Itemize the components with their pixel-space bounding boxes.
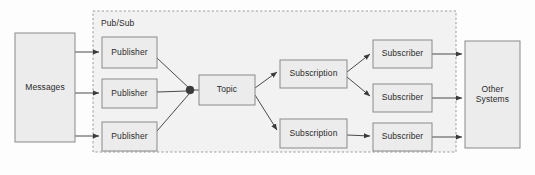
node-publisher3[interactable]: Publisher [102,122,157,151]
node-subscriber2[interactable]: Subscriber [373,84,432,112]
node-subscriber2-label: Subscriber [382,92,424,102]
pubsub-architecture-diagram: Pub/Sub MessagesPublisherPublisherPublis… [0,0,535,175]
node-publisher3-label: Publisher [111,131,147,141]
node-othersystems-label: Systems [476,94,509,104]
publisher-fan-in-junction-dot [186,86,194,94]
node-subscription1-label: Subscription [290,68,338,78]
node-subscription1[interactable]: Subscription [280,60,347,88]
pubsub-group-label: Pub/Sub [101,18,134,28]
node-publisher1[interactable]: Publisher [102,37,157,68]
node-messages-label: Messages [25,82,65,92]
node-subscriber3-label: Subscriber [382,131,424,141]
node-topic[interactable]: Topic [199,75,255,105]
node-othersystems-label: Other [482,84,504,94]
node-othersystems[interactable]: OtherSystems [465,41,520,148]
diagram-canvas: Pub/Sub MessagesPublisherPublisherPublis… [0,0,535,175]
node-subscriber3[interactable]: Subscriber [373,123,432,151]
node-subscription2[interactable]: Subscription [280,119,347,148]
node-subscriber1-label: Subscriber [382,48,424,58]
publisher-junction-point [186,86,194,94]
node-publisher2[interactable]: Publisher [102,79,157,108]
node-subscriber1[interactable]: Subscriber [373,40,432,68]
node-subscription2-label: Subscription [290,128,338,138]
node-topic-label: Topic [217,84,238,94]
node-publisher2-label: Publisher [111,88,147,98]
node-messages[interactable]: Messages [15,33,75,142]
node-publisher1-label: Publisher [111,47,147,57]
